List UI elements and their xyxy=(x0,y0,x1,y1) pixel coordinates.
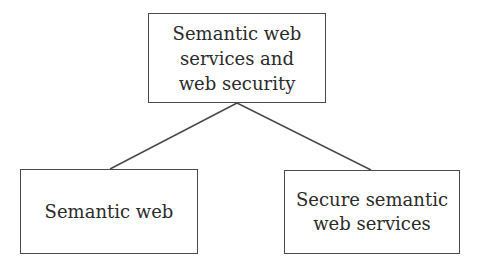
node-label: Semantic web xyxy=(45,200,174,224)
edge-root-to-left xyxy=(110,103,237,169)
node-label: Secure semantic web services xyxy=(296,188,448,236)
node-semantic-web: Semantic web xyxy=(20,169,198,254)
edge-root-to-right xyxy=(237,103,371,170)
node-label: Semantic web services and web security xyxy=(173,21,302,96)
node-semantic-web-services-and-web-security: Semantic web services and web security xyxy=(148,13,326,103)
diagram-canvas: Semantic web services and web security S… xyxy=(0,0,482,275)
node-secure-semantic-web-services: Secure semantic web services xyxy=(284,170,460,254)
